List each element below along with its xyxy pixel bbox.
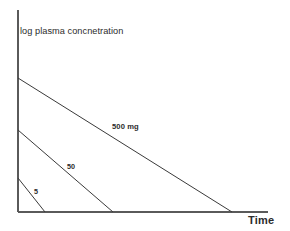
plasma-concentration-chart: log plasma concnetration Time 500 mg 50 … [0,0,290,231]
decay-line-500mg [18,78,232,212]
curve-label-5: 5 [34,188,38,195]
curve-label-50: 50 [67,163,75,170]
curve-label-500mg: 500 mg [112,123,139,131]
x-axis-label: Time [248,215,274,226]
decay-line-50 [18,130,113,212]
decay-line-5 [18,178,45,212]
y-axis-label: log plasma concnetration [20,27,123,36]
